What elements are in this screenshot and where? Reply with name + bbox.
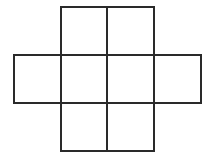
grid-cell-middle-1: [13, 54, 62, 104]
grid-cell-middle-2: [60, 54, 108, 104]
grid-cell-middle-4: [153, 54, 202, 104]
grid-cell-bottom-left: [60, 102, 108, 152]
grid-cell-middle-3: [106, 54, 155, 104]
grid-cell-bottom-right: [106, 102, 155, 152]
grid-cell-top-left: [60, 6, 108, 56]
grid-cell-top-right: [106, 6, 155, 56]
